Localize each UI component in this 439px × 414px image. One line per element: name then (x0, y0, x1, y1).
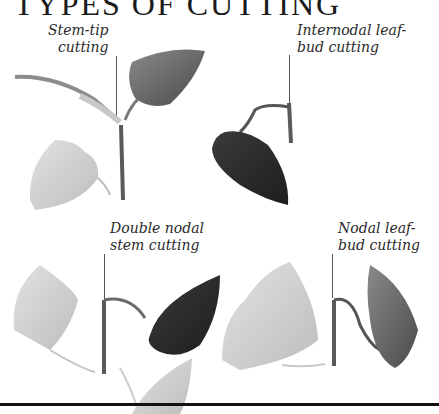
cuttings-illustration (0, 0, 439, 414)
bottom-divider-rule (0, 403, 439, 406)
stem-tip-cutting-illustration (15, 49, 205, 210)
nodal-cutting-illustration (222, 262, 418, 370)
internodal-cutting-illustration (212, 103, 291, 205)
double-nodal-cutting-illustration (14, 265, 220, 414)
